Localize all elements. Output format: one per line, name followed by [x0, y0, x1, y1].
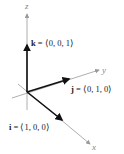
- j-vector-label: j = ⟨0, 1, 0⟩: [70, 84, 112, 94]
- i-components: = ⟨1, 0, 0⟩: [11, 122, 49, 132]
- k-vector-label: k = ⟨0, 0, 1⟩: [31, 38, 74, 48]
- i-vector-label: i = ⟨1, 0, 0⟩: [9, 122, 50, 132]
- vectors: [27, 45, 69, 120]
- z-axis-label: z: [24, 1, 29, 11]
- basis-vectors-diagram: z y x k = ⟨0, 0, 1⟩ j = ⟨0, 1, 0⟩ i = ⟨1…: [0, 0, 124, 154]
- k-components: = ⟨0, 0, 1⟩: [36, 38, 74, 48]
- x-axis-label: x: [91, 142, 96, 152]
- j-components: = ⟨0, 1, 0⟩: [74, 84, 112, 94]
- y-axis-label: y: [101, 65, 106, 75]
- i-vector: [27, 92, 62, 120]
- j-vector: [27, 79, 69, 92]
